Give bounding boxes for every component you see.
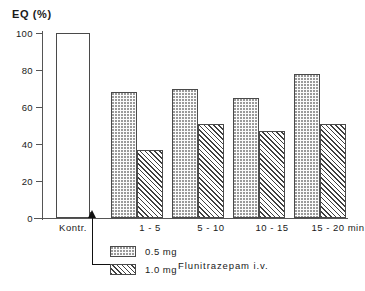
bar-g1-dose05: [111, 92, 137, 218]
y-tick-label-20: 20: [22, 176, 33, 187]
y-tick-label-60: 60: [22, 102, 33, 113]
bar-kontr-control: [56, 33, 90, 218]
y-tick-label-100: 100: [16, 28, 33, 39]
injection-arrow-elbow: [92, 264, 110, 265]
y-tick-label-40: 40: [22, 139, 33, 150]
x-label-2: 5 - 10: [197, 222, 224, 233]
legend-label-dose-10: 1.0 mg: [145, 264, 177, 275]
bar-g2-dose05: [172, 89, 198, 219]
legend-swatch-dose-10-icon: [110, 264, 136, 275]
y-tick-label-0: 0: [27, 213, 33, 224]
drug-annotation: Flunitrazepam i.v.: [178, 260, 268, 271]
legend-label-dose-05: 0.5 mg: [145, 246, 177, 257]
y-tick-0: [36, 218, 42, 219]
x-label-3: 10 - 15: [255, 222, 288, 233]
y-tick-label-80: 80: [22, 65, 33, 76]
plot-area: [42, 33, 342, 218]
legend-item-dose-10: 1.0 mg: [110, 261, 177, 277]
x-label-4: 15 - 20 min: [311, 222, 364, 233]
x-label-1: 1 - 5: [139, 222, 161, 233]
injection-arrow-stem: [92, 217, 93, 265]
legend-swatch-dose-05-icon: [110, 246, 136, 257]
x-axis-line: [34, 218, 348, 219]
bar-g2-dose10: [198, 124, 224, 218]
bar-g3-dose05: [233, 98, 259, 218]
legend-item-dose-05: 0.5 mg: [110, 243, 177, 259]
legend: 0.5 mg 1.0 mg: [110, 243, 177, 279]
bar-g4-dose05: [294, 74, 320, 218]
bar-g1-dose10: [137, 150, 163, 218]
bar-g4-dose10: [320, 124, 346, 218]
x-label-0: Kontr.: [59, 222, 87, 233]
y-axis-title: EQ (%): [12, 8, 52, 20]
bar-g3-dose10: [259, 131, 285, 218]
